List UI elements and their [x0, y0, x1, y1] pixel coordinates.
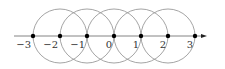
tick-label-3: 3 [187, 39, 193, 50]
point--3 [31, 34, 35, 38]
number-line-axis [14, 34, 207, 38]
point-2 [166, 34, 170, 38]
tick-label-0: 0 [106, 39, 112, 50]
point-3 [193, 34, 197, 38]
point--1 [85, 34, 89, 38]
arrow-right-icon [201, 34, 207, 38]
number-line-diagram: −3−2−10123 [0, 0, 225, 69]
tick-label--1: −1 [70, 39, 85, 50]
point-1 [139, 34, 143, 38]
tick-label-1: 1 [133, 39, 139, 50]
tick-label--2: −2 [43, 39, 58, 50]
point--2 [58, 34, 62, 38]
tick-label-2: 2 [160, 39, 166, 50]
point-0 [112, 34, 116, 38]
tick-label--3: −3 [16, 39, 31, 50]
